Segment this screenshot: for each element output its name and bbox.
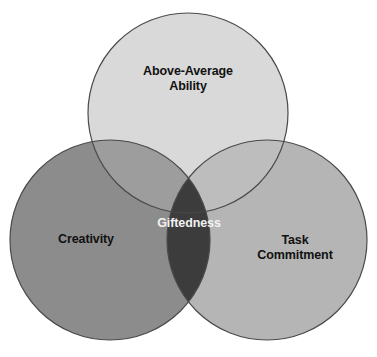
venn-diagram: Above-Average Ability Creativity Task Co… bbox=[0, 0, 377, 357]
venn-diagram-canvas bbox=[0, 0, 377, 357]
